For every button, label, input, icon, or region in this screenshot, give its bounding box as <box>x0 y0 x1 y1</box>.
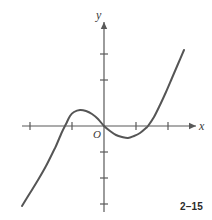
x-axis-arrowhead <box>189 123 196 129</box>
figure-number-label: 2–15 <box>180 201 203 212</box>
figure-container: y x O 2–15 <box>0 0 212 220</box>
y-axis-label: y <box>96 9 101 21</box>
graph-canvas <box>0 0 212 220</box>
cubic-curve <box>22 50 184 206</box>
x-axis-label: x <box>199 120 204 132</box>
origin-label: O <box>93 129 101 140</box>
y-axis-arrowhead <box>101 22 107 29</box>
axes-group <box>22 22 196 212</box>
